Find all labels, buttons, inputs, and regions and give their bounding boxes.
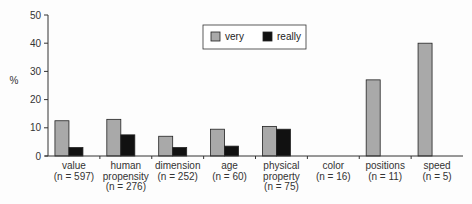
legend: veryreally xyxy=(203,25,306,49)
bar-really xyxy=(121,135,135,156)
category-label: (n = 252) xyxy=(158,171,198,182)
y-axis: 01020304050 xyxy=(30,10,48,162)
bar-very xyxy=(418,43,432,156)
category-label: value xyxy=(62,160,86,171)
bars xyxy=(55,43,432,156)
bar-very xyxy=(262,126,276,156)
category-label: (n = 75) xyxy=(264,181,299,192)
legend-label-really: really xyxy=(277,31,301,42)
y-axis-label: % xyxy=(10,75,19,86)
y-tick-label: 40 xyxy=(30,38,42,49)
x-axis: value(n = 597)humanpropensity(n = 276)di… xyxy=(45,156,463,192)
bar-very xyxy=(211,129,225,156)
bar-very xyxy=(55,121,69,156)
bar-really xyxy=(276,129,290,156)
category-label: positions xyxy=(365,160,404,171)
category-label: physical xyxy=(263,160,299,171)
bar-very xyxy=(159,136,173,156)
legend-label-very: very xyxy=(225,31,244,42)
legend-swatch-very xyxy=(211,32,220,41)
category-label: property xyxy=(263,171,300,182)
bar-really xyxy=(225,146,239,156)
bar-very xyxy=(366,80,380,156)
y-tick-label: 0 xyxy=(35,151,41,162)
y-tick-label: 30 xyxy=(30,66,42,77)
category-label: dimension xyxy=(155,160,201,171)
category-label: (n = 11) xyxy=(368,171,402,182)
category-label: (n = 276) xyxy=(106,181,146,192)
category-label: human xyxy=(111,160,142,171)
bar-very xyxy=(107,119,121,156)
category-label: age xyxy=(221,160,238,171)
category-label: color xyxy=(322,160,344,171)
category-label: (n = 60) xyxy=(212,171,247,182)
category-label: (n = 16) xyxy=(316,171,351,182)
bar-really xyxy=(173,148,187,156)
category-label: (n = 5) xyxy=(422,171,451,182)
y-tick-label: 20 xyxy=(30,94,42,105)
category-label: (n = 597) xyxy=(54,171,94,182)
category-label: propensity xyxy=(103,171,149,182)
legend-swatch-really xyxy=(263,32,272,41)
category-label: speed xyxy=(423,160,450,171)
bar-chart: 01020304050 % value(n = 597)humanpropens… xyxy=(0,0,472,204)
bar-really xyxy=(69,148,83,156)
y-tick-label: 50 xyxy=(30,10,42,21)
y-tick-label: 10 xyxy=(30,122,42,133)
